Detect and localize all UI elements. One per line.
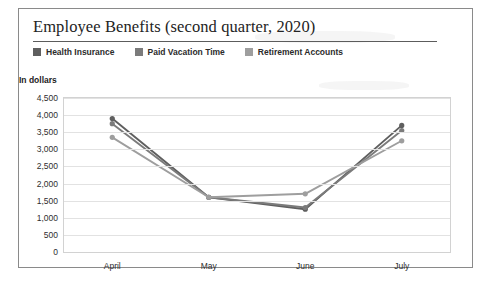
data-point-marker [303, 205, 308, 210]
plot-area: 05001,0001,5002,0002,5003,0003,5004,0004… [63, 97, 451, 253]
gridline [64, 184, 450, 185]
data-point-marker [206, 195, 211, 200]
page-title: Employee Benefits (second quarter, 2020) [33, 17, 453, 37]
legend-item-label: Paid Vacation Time [148, 47, 225, 57]
legend-item: Health Insurance [33, 47, 115, 57]
gridline [64, 115, 450, 116]
data-point-marker [399, 138, 404, 143]
gridline [64, 98, 450, 99]
legend-swatch-icon [33, 48, 41, 56]
data-point-marker [110, 121, 115, 126]
chart-series-layer [64, 98, 450, 252]
x-axis-tick-label: May [201, 252, 217, 271]
legend-swatch-icon [135, 48, 143, 56]
data-point-marker [399, 123, 404, 128]
legend-item: Paid Vacation Time [135, 47, 225, 57]
y-axis-tick-label: 3,000 [37, 144, 64, 154]
gridline [64, 201, 450, 202]
y-axis-tick-label: 2,500 [37, 161, 64, 171]
data-point-marker [110, 116, 115, 121]
x-axis-tick-label: July [394, 252, 409, 271]
chart-figure: Employee Benefits (second quarter, 2020)… [18, 8, 473, 268]
legend-item-label: Retirement Accounts [258, 47, 343, 57]
y-axis-unit-label: In dollars [19, 75, 57, 85]
legend-swatch-icon [245, 48, 253, 56]
y-axis-tick-label: 4,500 [37, 93, 64, 103]
legend-item-label: Health Insurance [46, 47, 115, 57]
data-point-marker [303, 191, 308, 196]
gridline [64, 235, 450, 236]
title-divider [33, 41, 437, 42]
gridline [64, 149, 450, 150]
x-axis-tick-label: June [296, 252, 314, 271]
chart-legend: Health InsurancePaid Vacation TimeRetire… [33, 45, 343, 59]
data-point-marker [110, 135, 115, 140]
gridline [64, 132, 450, 133]
y-axis-tick-label: 1,000 [37, 213, 64, 223]
y-axis-tick-label: 1,500 [37, 196, 64, 206]
legend-item: Retirement Accounts [245, 47, 343, 57]
gridline [64, 218, 450, 219]
y-axis-tick-label: 4,000 [37, 110, 64, 120]
y-axis-tick-label: 500 [44, 230, 64, 240]
x-axis-tick-label: April [104, 252, 121, 271]
gridline [64, 166, 450, 167]
y-axis-tick-label: 0 [53, 247, 64, 257]
scan-blemish [319, 81, 409, 90]
y-axis-tick-label: 2,000 [37, 179, 64, 189]
y-axis-tick-label: 3,500 [37, 127, 64, 137]
